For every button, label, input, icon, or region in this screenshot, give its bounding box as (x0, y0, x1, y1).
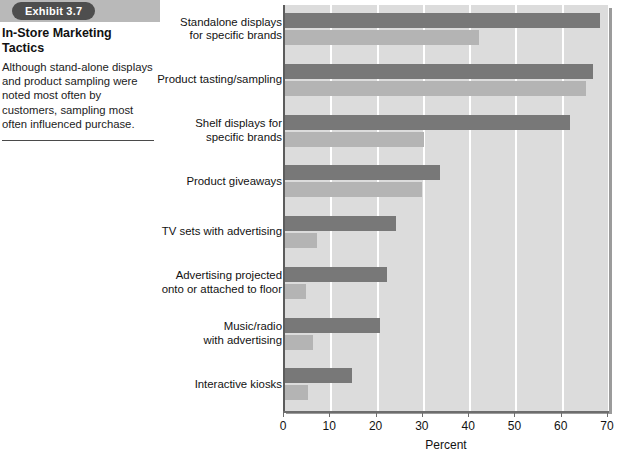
category-label: Product tasting/sampling (147, 73, 282, 87)
category-label: Product giveaways (147, 175, 282, 189)
bar-0-7 (285, 368, 352, 383)
x-tick-label: 60 (546, 419, 576, 433)
x-tick-label: 20 (361, 419, 391, 433)
bar-0-3 (285, 165, 440, 180)
bar-0-2 (285, 115, 570, 130)
caption-divider (2, 140, 154, 141)
bar-1-4 (285, 233, 317, 248)
bar-0-5 (285, 267, 387, 282)
x-tick (283, 411, 284, 417)
caption-title: In-Store Marketing Tactics (2, 26, 154, 56)
category-axis-labels: Standalone displaysfor specific brandsPr… (142, 0, 282, 411)
gridline (608, 5, 609, 411)
bar-1-2 (285, 132, 424, 147)
x-tick-label: 70 (592, 419, 617, 433)
x-tick (514, 411, 515, 417)
x-axis-title: Percent (283, 438, 609, 452)
caption-body: Although stand-alone displays and produc… (2, 60, 158, 131)
x-tick-label: 10 (314, 419, 344, 433)
bar-1-7 (285, 385, 308, 400)
category-label: Shelf displays forspecific brands (147, 117, 282, 144)
bar-1-3 (285, 182, 422, 197)
x-tick (561, 411, 562, 417)
bar-0-1 (285, 64, 593, 79)
category-label: Interactive kiosks (147, 378, 282, 392)
x-tick (329, 411, 330, 417)
x-tick (376, 411, 377, 417)
x-tick (607, 411, 608, 417)
category-label: Advertising projectedonto or attached to… (147, 269, 282, 296)
x-tick (468, 411, 469, 417)
x-tick (422, 411, 423, 417)
category-label: TV sets with advertising (147, 225, 282, 239)
x-tick-label: 0 (268, 419, 298, 433)
bar-0-0 (285, 13, 600, 28)
bar-0-4 (285, 216, 396, 231)
plot-area (283, 5, 609, 411)
bar-0-6 (285, 318, 380, 333)
exhibit-tab-label: Exhibit 3.7 (12, 2, 95, 20)
bar-1-5 (285, 284, 306, 299)
bar-1-0 (285, 30, 479, 45)
category-label: Music/radiowith advertising (147, 320, 282, 347)
x-tick-label: 50 (499, 419, 529, 433)
x-tick-label: 40 (453, 419, 483, 433)
bar-1-6 (285, 335, 313, 350)
x-tick-label: 30 (407, 419, 437, 433)
category-label: Standalone displaysfor specific brands (147, 16, 282, 43)
caption-panel: Exhibit 3.7 In-Store Marketing Tactics A… (0, 0, 160, 150)
bar-1-1 (285, 81, 586, 96)
bar-chart: Standalone displaysfor specific brandsPr… (150, 0, 617, 460)
